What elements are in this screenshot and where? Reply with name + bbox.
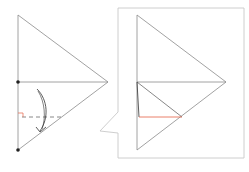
reference-point-dot [16,148,20,152]
right-angle-marker [18,113,23,117]
left-fold-diagram [16,15,108,152]
curved-fold-arrow-icon [36,89,46,132]
left-triangle [18,15,108,150]
origami-diagram [0,0,249,172]
detail-callout [100,8,244,158]
reference-point-dot [16,80,20,84]
